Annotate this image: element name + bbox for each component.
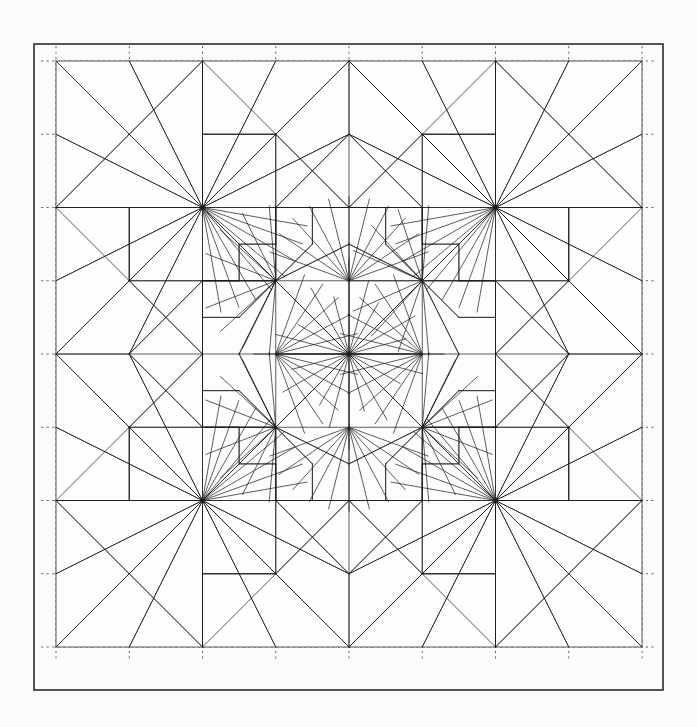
crease-lines-layer — [56, 61, 642, 647]
crease-pattern-canvas — [0, 0, 697, 727]
crease-pattern-page — [0, 0, 697, 727]
